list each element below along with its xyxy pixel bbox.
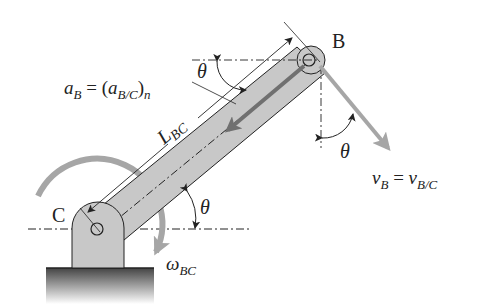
theta-arc-right [322,114,353,138]
label-point-b: B [332,30,345,52]
label-theta-top: θ [197,60,207,82]
label-omega: ωBC [166,253,196,278]
label-theta-right: θ [340,140,350,162]
label-point-c: C [52,204,65,226]
label-velocity: vB = vB/C [372,167,438,192]
label-theta-bottom: θ [200,196,210,218]
ground [46,268,154,304]
theta-arc-bottom [187,191,196,228]
rigid-link-diagram: B C aB = (aB/C)n LBC θ θ θ vB = vB/C ωBC [0,0,492,304]
theta-arc-top [217,61,246,90]
velocity-arrow [320,66,388,148]
label-acceleration: aB = (aB/C)n [64,77,151,102]
pin-support-c [72,202,124,268]
